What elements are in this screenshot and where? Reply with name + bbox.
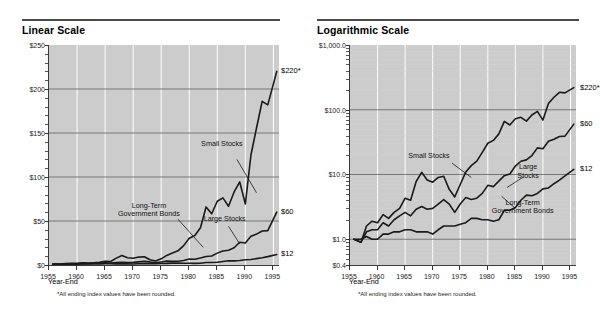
y-minor-tick [346, 59, 349, 60]
y-tick-mark [45, 221, 49, 222]
series-annotation: Large Stocks [517, 163, 539, 180]
y-tick-label: $100 [29, 174, 45, 181]
x-tick-mark [487, 266, 488, 270]
end-value-label: $220* [580, 84, 600, 92]
x-tick-mark [542, 266, 543, 270]
x-tick-label: 1965 [396, 273, 412, 280]
x-tick-mark [216, 266, 217, 270]
y-tick-label: $100.0 [325, 106, 346, 113]
y-minor-tick [45, 71, 48, 72]
y-minor-tick [45, 168, 48, 169]
y-tick-mark [45, 89, 49, 90]
panel-top-rule [317, 19, 579, 21]
series-annotation: Small Stocks [408, 152, 450, 161]
y-minor-tick [346, 79, 349, 80]
end-value-label: $12 [580, 166, 593, 174]
y-tick-mark [346, 174, 350, 175]
y-minor-tick [346, 155, 349, 156]
y-minor-tick [45, 124, 48, 125]
y-minor-tick [346, 136, 349, 137]
x-tick-mark [48, 266, 49, 270]
x-tick-label: 1965 [96, 273, 112, 280]
y-minor-tick [45, 54, 48, 55]
series-line [354, 88, 574, 243]
plot-area-linear [48, 45, 279, 266]
x-tick-mark [569, 266, 570, 270]
y-minor-tick [346, 259, 349, 260]
plot-canvas [49, 45, 279, 265]
x-tick-label: 1975 [451, 273, 467, 280]
y-minor-tick [45, 186, 48, 187]
x-tick-label: 1980 [479, 273, 495, 280]
y-minor-tick [346, 181, 349, 182]
y-minor-tick [45, 142, 48, 143]
y-minor-tick [346, 189, 349, 190]
y-minor-tick [45, 107, 48, 108]
footnote-log: *All ending index values have been round… [358, 291, 477, 297]
y-minor-tick [45, 115, 48, 116]
x-tick-mark [432, 266, 433, 270]
plot-canvas [350, 45, 576, 265]
end-value-label: $60 [580, 120, 593, 128]
x-tick-mark [76, 266, 77, 270]
y-minor-tick [346, 185, 349, 186]
y-tick-label: $1.0 [332, 236, 346, 243]
y-minor-tick [346, 113, 349, 114]
x-axis-caption-log: Year-End [349, 278, 379, 285]
y-minor-tick [346, 48, 349, 49]
x-tick-mark [404, 266, 405, 270]
x-tick-mark [160, 266, 161, 270]
plot-area-log [349, 45, 576, 266]
y-minor-tick [346, 249, 349, 250]
y-minor-tick [346, 144, 349, 145]
x-tick-label: 1985 [507, 273, 523, 280]
y-minor-tick [346, 177, 349, 178]
x-axis-labels-linear: 195519601965197019751980198519901995 [48, 270, 278, 282]
x-tick-label: 1995 [562, 273, 578, 280]
panel-title-linear: Linear Scale [22, 24, 85, 36]
series-annotation: Small Stocks [201, 140, 243, 149]
x-tick-label: 1970 [424, 273, 440, 280]
x-tick-label: 1970 [124, 273, 140, 280]
x-tick-label: 1995 [265, 273, 281, 280]
y-minor-tick [45, 98, 48, 99]
y-minor-tick [346, 246, 349, 247]
panel-logarithmic-scale: Logarithmic Scale $0.4$1.0$10.0$100.0$1,… [297, 0, 594, 313]
x-tick-mark [104, 266, 105, 270]
y-tick-mark [346, 45, 350, 46]
series-line [354, 124, 574, 242]
y-tick-label: $150 [29, 130, 45, 137]
y-minor-tick [346, 51, 349, 52]
series-annotation: Long-Term Government Bonds [118, 202, 180, 219]
x-tick-mark [377, 266, 378, 270]
y-minor-tick [45, 80, 48, 81]
y-minor-tick [346, 208, 349, 209]
series-annotation: Large Stocks [204, 215, 246, 224]
x-tick-label: 1990 [534, 273, 550, 280]
x-tick-label: 1980 [180, 273, 196, 280]
y-tick-label: $0 [37, 262, 45, 269]
y-tick-mark [45, 177, 49, 178]
y-minor-tick [346, 200, 349, 201]
y-minor-tick [346, 254, 349, 255]
x-axis-caption-linear: Year-End [48, 278, 78, 285]
panel-top-rule [22, 19, 280, 21]
y-minor-tick [346, 129, 349, 130]
end-value-label: $60 [281, 208, 294, 216]
y-tick-label: $250 [29, 42, 45, 49]
y-minor-tick [45, 212, 48, 213]
x-tick-mark [349, 266, 350, 270]
end-value-label: $12 [281, 251, 294, 259]
x-tick-label: 1975 [152, 273, 168, 280]
footnote-linear: *All ending index values have been round… [57, 291, 176, 297]
y-minor-tick [45, 195, 48, 196]
x-tick-mark [514, 266, 515, 270]
y-minor-tick [346, 124, 349, 125]
y-tick-label: $50 [33, 218, 45, 225]
y-minor-tick [346, 194, 349, 195]
y-minor-tick [45, 230, 48, 231]
y-minor-tick [346, 55, 349, 56]
x-tick-label: 1985 [208, 273, 224, 280]
y-tick-label: $10.0 [328, 171, 346, 178]
